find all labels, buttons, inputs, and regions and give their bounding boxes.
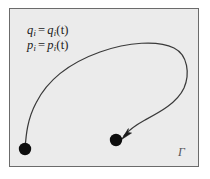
equation-q-subscript: i	[33, 28, 36, 38]
phase-space-figure: qi=qi(t) pi=pi(t) Γ	[0, 0, 210, 179]
equation-q-equals: =	[36, 23, 47, 37]
gamma-space-label: Γ	[178, 145, 185, 160]
equation-label-q: qi=qi(t)	[27, 23, 69, 38]
equation-p-subscript: i	[33, 43, 36, 53]
equation-p-function: p	[47, 38, 53, 52]
equation-label-p: pi=pi(t)	[27, 38, 69, 53]
equation-p-function-subscript: i	[54, 43, 57, 53]
equation-q-function-subscript: i	[54, 28, 57, 38]
equation-p-argument: (t)	[56, 38, 68, 52]
equation-p-equals: =	[36, 38, 47, 52]
equation-q-function: q	[47, 23, 53, 37]
equation-q-argument: (t)	[56, 23, 68, 37]
